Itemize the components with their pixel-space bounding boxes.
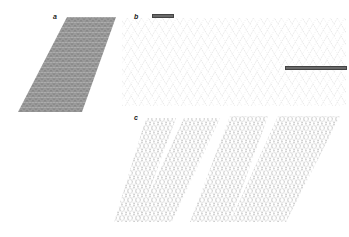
panel-b: b — [110, 0, 349, 110]
scale-bar-top — [152, 14, 174, 18]
panel-c: c — [100, 110, 349, 237]
panel-a-label: a — [53, 13, 57, 20]
scale-bar-right — [285, 66, 347, 70]
panel-b-label: b — [134, 13, 138, 20]
panel-c-label: c — [134, 114, 138, 121]
panel-b-lattice — [110, 0, 349, 110]
panel-a: a — [0, 0, 120, 120]
panel-a-lattice — [0, 0, 120, 120]
panel-c-lattice — [100, 110, 349, 237]
